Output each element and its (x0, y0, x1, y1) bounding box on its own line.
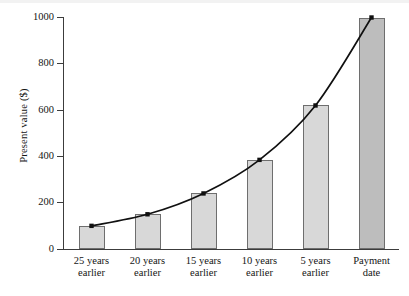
bar (359, 18, 385, 250)
y-tick-mark (57, 249, 64, 250)
bar (79, 226, 105, 249)
y-tick-mark (57, 110, 64, 111)
x-axis-category-label-line: 10 years (232, 255, 288, 267)
x-axis-category-label: 10 yearsearlier (232, 255, 288, 278)
present-value-curve (0, 0, 409, 296)
y-tick-label: 800 (38, 58, 54, 68)
bar (191, 193, 217, 249)
bar (135, 214, 161, 249)
x-axis-category-label-line: 20 years (120, 255, 176, 267)
x-axis-category-label-line: 25 years (64, 255, 120, 267)
scan-edge-artifact (0, 0, 409, 3)
x-axis-category-label-line: 5 years (288, 255, 344, 267)
y-tick-mark (57, 63, 64, 64)
x-axis-category-label: 25 yearsearlier (64, 255, 120, 278)
x-axis-category-label: 15 yearsearlier (176, 255, 232, 278)
x-axis-category-label-line: date (344, 267, 400, 279)
x-axis-category-label-line: earlier (64, 267, 120, 279)
x-axis-category-label-line: earlier (176, 267, 232, 279)
y-tick-label: 400 (38, 151, 54, 161)
x-axis-category-label: 5 yearsearlier (288, 255, 344, 278)
bar (247, 160, 273, 249)
x-axis-category-label-line: Payment (344, 255, 400, 267)
y-axis-label: Present value ($) (18, 56, 29, 196)
bar (303, 105, 329, 249)
x-axis-category-label-line: earlier (232, 267, 288, 279)
x-axis-category-label: Paymentdate (344, 255, 400, 278)
y-axis-line (63, 17, 64, 250)
present-value-bar-chart: Present value ($) 02004006008001000 25 y… (0, 0, 409, 296)
x-axis-category-label: 20 yearsearlier (120, 255, 176, 278)
x-axis-category-label-line: earlier (288, 267, 344, 279)
y-tick-mark (57, 156, 64, 157)
y-tick-label: 200 (38, 197, 54, 207)
y-tick-label: 1000 (33, 12, 54, 22)
y-tick-mark (57, 202, 64, 203)
x-axis-line (63, 249, 399, 250)
x-axis-category-label-line: earlier (120, 267, 176, 279)
x-axis-category-label-line: 15 years (176, 255, 232, 267)
y-tick-mark (57, 17, 64, 18)
y-tick-label: 600 (38, 105, 54, 115)
y-tick-label: 0 (49, 244, 54, 254)
